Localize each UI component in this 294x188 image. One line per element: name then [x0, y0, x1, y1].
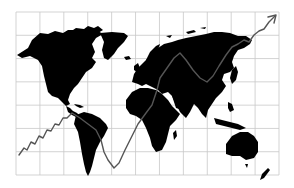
new-zealand — [260, 168, 270, 180]
philippines-islands — [228, 102, 234, 112]
world-map-trend-illustration — [0, 0, 294, 188]
caribbean-islands — [74, 104, 84, 108]
north-america-landmass — [17, 30, 103, 106]
greenland-landmass — [100, 32, 128, 60]
iceland-landmass — [124, 56, 131, 60]
world-landmasses — [17, 26, 270, 180]
africa-landmass — [126, 88, 180, 152]
south-america-landmass — [74, 112, 108, 176]
map-chart-svg — [0, 0, 294, 188]
tasmania — [245, 164, 248, 168]
madagascar — [173, 130, 177, 140]
